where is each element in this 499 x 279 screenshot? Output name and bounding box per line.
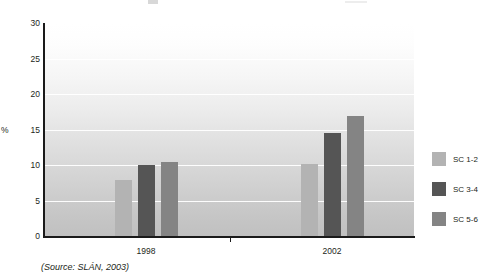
bar-chart-figure: 051015202530 % 19982002 SC 1-2SC 3-4SC 5… (0, 0, 499, 279)
legend-swatch (432, 212, 446, 226)
chart-legend: SC 1-2SC 3-4SC 5-6 (432, 150, 499, 240)
y-tick-label: 15 (14, 126, 40, 135)
y-tick-label: 30 (14, 19, 40, 28)
legend-label: SC 1-2 (453, 155, 478, 164)
bar (301, 164, 318, 237)
gridline (44, 59, 414, 60)
gridline (44, 94, 414, 95)
y-tick-label: 0 (14, 232, 40, 241)
plot-area (44, 24, 414, 237)
legend-label: SC 3-4 (453, 185, 478, 194)
legend-item[interactable]: SC 1-2 (432, 150, 499, 180)
bar (115, 180, 132, 237)
bar (347, 116, 364, 237)
bar (161, 162, 178, 237)
legend-label: SC 5-6 (453, 215, 478, 224)
legend-swatch (432, 152, 446, 166)
y-axis-title: % (1, 126, 9, 135)
legend-item[interactable]: SC 5-6 (432, 210, 499, 240)
x-axis-tick (230, 237, 231, 242)
y-tick-label: 20 (14, 90, 40, 99)
bar (324, 133, 341, 237)
x-tick-label: 1998 (137, 246, 156, 256)
x-axis-line (43, 236, 415, 238)
source-note: (Source: SLÁN, 2003) (41, 262, 129, 273)
y-axis-tick-labels: 051015202530 (10, 0, 40, 279)
legend-swatch (432, 182, 446, 196)
y-tick-label: 25 (14, 55, 40, 64)
y-axis-line (43, 23, 45, 238)
y-tick-label: 10 (14, 161, 40, 170)
x-tick-label: 2002 (323, 246, 342, 256)
bar (138, 165, 155, 237)
y-tick-label: 5 (14, 197, 40, 206)
legend-item[interactable]: SC 3-4 (432, 180, 499, 210)
